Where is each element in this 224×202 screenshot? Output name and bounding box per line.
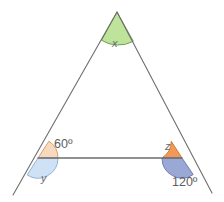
angle-label-120-degrees: 120º [172,176,197,189]
left-side-line [13,12,117,195]
angle-label-y: y [41,173,47,184]
angle-label-z: z [165,141,171,152]
triangle-diagram-svg [0,0,224,202]
angle-label-x: x [112,38,118,49]
geometry-figure: x y z 60º 120º [0,0,224,202]
angle-label-60-degrees: 60º [54,138,72,151]
